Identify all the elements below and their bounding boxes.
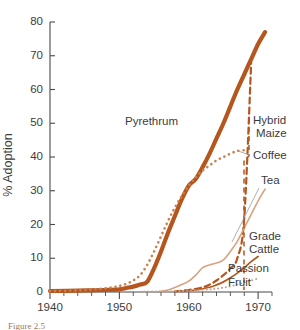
x-tick-label-1940: 1940	[37, 301, 63, 313]
x-tick-label-1970: 1970	[245, 301, 271, 313]
series-curve-pyrethrum	[50, 32, 265, 291]
series-label-coffee: Coffee	[253, 149, 287, 161]
y-tick-label-10: 10	[30, 251, 43, 263]
adoption-curves-figure: 010203040506070801940195019601970 Pyreth…	[0, 0, 300, 330]
series-curve-coffee	[50, 150, 244, 291]
y-tick-label-80: 80	[30, 15, 43, 27]
series-label-passion-fruit-line2: Fruit	[228, 276, 252, 288]
y-tick-label-50: 50	[30, 116, 43, 128]
y-tick-label-0: 0	[37, 285, 43, 297]
y-tick-label-70: 70	[30, 49, 43, 61]
series-label-hybrid-maize-line1: Hybrid	[253, 114, 286, 126]
series-label-grade-cattle-line1: Grade	[249, 230, 281, 242]
x-tick-label-1950: 1950	[107, 301, 133, 313]
series-label-pyrethrum: Pyrethrum	[125, 115, 178, 127]
y-tick-label-20: 20	[30, 218, 43, 230]
series-label-tea: Tea	[261, 174, 280, 186]
curves-layer	[50, 32, 265, 292]
axis-titles-layer: % Adoption	[1, 133, 15, 196]
y-tick-label-60: 60	[30, 83, 43, 95]
series-curve-hybrid-maize	[175, 63, 251, 292]
y-tick-label-30: 30	[30, 184, 43, 196]
y-tick-label-40: 40	[30, 150, 43, 162]
series-label-hybrid-maize-line2: Maize	[256, 127, 287, 139]
y-axis-title: % Adoption	[1, 133, 15, 196]
series-label-passion-fruit-line1: Passion	[228, 262, 269, 274]
series-label-grade-cattle-line2: Cattle	[249, 243, 279, 255]
chart-canvas: 010203040506070801940195019601970 Pyreth…	[0, 0, 300, 330]
series-labels-layer: Pyrethrum Hybrid Maize Coffee Tea Grade …	[125, 114, 287, 288]
x-tick-label-1960: 1960	[176, 301, 202, 313]
figure-caption: Figure 2.5	[8, 321, 296, 330]
